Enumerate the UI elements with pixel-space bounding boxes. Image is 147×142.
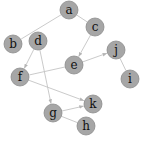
node-d: d [29, 32, 47, 50]
node-label: c [92, 20, 99, 34]
edge-f-k [28, 80, 84, 101]
node-c: c [86, 18, 104, 36]
edge-d-f [24, 49, 34, 68]
edge-a-c [77, 15, 88, 22]
node-k: k [84, 95, 102, 113]
edge-g-k [62, 106, 84, 111]
node-label: k [89, 97, 97, 111]
node-h: h [77, 117, 95, 135]
node-label: a [65, 3, 72, 17]
node-label: h [82, 119, 90, 133]
node-f: f [11, 68, 29, 86]
node-e: e [65, 56, 83, 74]
node-label: g [49, 106, 57, 120]
edge-c-e [79, 35, 91, 57]
edge-e-f [29, 67, 65, 75]
node-label: e [70, 58, 77, 72]
node-g: g [44, 104, 62, 122]
node-j: j [107, 41, 125, 59]
edge-j-i [120, 58, 126, 70]
node-b: b [4, 35, 22, 53]
edge-g-h [61, 116, 77, 122]
network-graph: abcdefghijk [0, 0, 147, 142]
node-i: i [121, 70, 139, 88]
node-label: d [34, 34, 42, 48]
node-a: a [60, 1, 78, 19]
edge-d-g [40, 50, 51, 104]
edge-e-j [82, 53, 107, 62]
node-label: b [9, 37, 17, 51]
node-label: i [128, 72, 132, 86]
